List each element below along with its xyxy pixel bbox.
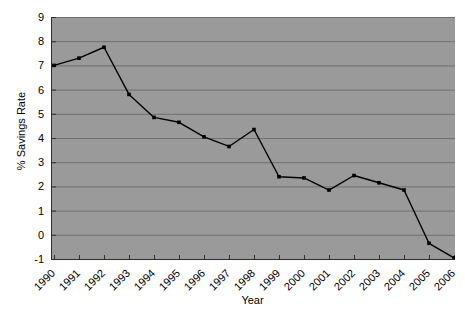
data-point-marker: 1995: 4.65 (177, 120, 181, 124)
savings-rate-line-chart: % Savings Rate 9876543210-1 1990: 71991:… (0, 0, 465, 312)
y-axis-tick-label: 2 (22, 179, 44, 193)
data-point-marker: 1994: 4.85 (152, 116, 156, 120)
plot-svg: 1990: 71991: 7.31992: 7.751993: 5.81994:… (52, 17, 455, 259)
plot-area: 1990: 71991: 7.31992: 7.751993: 5.81994:… (51, 17, 455, 260)
data-point-marker: 1992: 7.75 (102, 45, 106, 49)
x-axis-title: Year (51, 293, 454, 307)
gridlines (52, 18, 455, 260)
data-point-marker: 1991: 7.3 (77, 56, 81, 60)
y-axis-tick-label: -1 (22, 252, 44, 266)
x-axis-tick-marks (55, 255, 455, 259)
data-series-line (54, 47, 454, 258)
y-axis-tick-label: 7 (22, 58, 44, 72)
data-point-marker: 2003: 2.15 (377, 181, 381, 185)
data-point-marker: 1998: 4.35 (252, 128, 256, 132)
y-axis-tick-labels: 9876543210-1 (22, 10, 44, 266)
data-point-marker: 1990: 7 (52, 64, 56, 68)
data-point-marker: 2001: 1.85 (327, 188, 331, 192)
data-point-marker: 2000: 2.35 (302, 176, 306, 180)
data-point-marker: 1997: 3.65 (227, 145, 231, 149)
y-axis-tick-label: 3 (22, 155, 44, 169)
y-axis-tick-label: 0 (22, 228, 44, 242)
y-axis-tick-label: 6 (22, 83, 44, 97)
data-point-marker: 1996: 4.05 (202, 135, 206, 139)
y-axis-tick-label: 5 (22, 107, 44, 121)
data-point-marker: 2004: 1.85 (402, 188, 406, 192)
data-point-marker: 1993: 5.8 (127, 93, 131, 97)
data-point-marker: 2002: 2.45 (352, 174, 356, 178)
data-point-markers: 1990: 71991: 7.31992: 7.751993: 5.81994:… (52, 45, 455, 259)
data-point-marker: 1999: 2.4 (277, 175, 281, 179)
data-point-marker: 2006: -0.95 (452, 256, 455, 259)
y-axis-tick-label: 4 (22, 131, 44, 145)
y-axis-tick-label: 8 (22, 34, 44, 48)
data-point-marker: 2005: -0.35 (427, 241, 431, 245)
y-axis-tick-label: 1 (22, 204, 44, 218)
y-axis-tick-label: 9 (22, 10, 44, 24)
